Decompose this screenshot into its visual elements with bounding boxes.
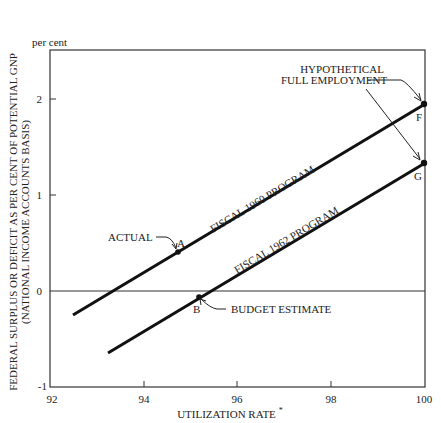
arrowhead-icon [200, 299, 206, 305]
annotation-budget-estimate: BUDGET ESTIMATE [231, 303, 332, 315]
point-a-label: A [177, 237, 185, 249]
point-f-label: F [416, 111, 422, 123]
g-leader-arrow [366, 89, 420, 159]
x-ticks [144, 381, 331, 387]
x-tick-92: 92 [47, 393, 58, 405]
x-tick-96: 96 [232, 393, 244, 405]
y-axis-label: FEDERAL SURPLUS OR DEFICIT AS PER CENT O… [7, 53, 19, 391]
y-tick-1: 1 [37, 189, 43, 201]
y-axis-sublabel: (NATIONAL INCOME ACCOUNTS BASIS) [19, 120, 32, 324]
actual-leader-arrow [156, 237, 176, 248]
x-tick-94: 94 [139, 393, 151, 405]
y-tick-0: 0 [37, 285, 43, 297]
y-tick-minus1: -1 [38, 380, 47, 392]
arrowhead-icon [413, 152, 420, 160]
chart: 2 1 0 -1 92 94 96 98 100 UTILIZATION RAT… [0, 0, 441, 423]
y-unit-label: per cent [32, 36, 67, 48]
x-axis-label: UTILIZATION RATE* [177, 406, 283, 420]
point-b-label: B [193, 303, 200, 315]
arrowhead-icon [414, 93, 421, 101]
point-f [421, 101, 427, 107]
label-fiscal-1962: FISCAL 1962 PROGRAM [232, 204, 341, 276]
annotation-actual: ACTUAL [108, 231, 153, 243]
point-a [175, 249, 181, 255]
point-g [421, 160, 427, 166]
point-g-label: G [414, 170, 422, 182]
x-tick-98: 98 [326, 393, 338, 405]
y-tick-2: 2 [37, 93, 43, 105]
x-tick-100: 100 [416, 393, 433, 405]
y-ticks [50, 99, 56, 195]
